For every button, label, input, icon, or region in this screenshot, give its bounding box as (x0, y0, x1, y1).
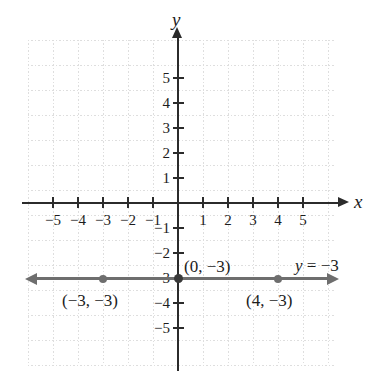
y-axis-label: y (172, 10, 180, 29)
x-tick (77, 197, 79, 208)
x-tick (52, 197, 54, 208)
x-tick-label: 1 (199, 213, 207, 228)
graph-canvas: x y −5 −4 −3 −2 −1 1 2 3 4 5 5 4 3 2 1 −… (0, 0, 380, 381)
graph-line-arrow-left-icon (25, 273, 37, 285)
x-axis-label: x (354, 192, 362, 211)
x-axis (22, 202, 340, 204)
x-tick-label: −4 (70, 213, 86, 228)
x-axis-arrow-icon (338, 197, 349, 207)
x-tick-label: 3 (249, 213, 257, 228)
plot-point (99, 275, 107, 283)
point-label-origin: (0, −3) (184, 258, 230, 275)
y-tick-label: −5 (143, 321, 170, 336)
x-tick (277, 197, 279, 208)
x-tick-label: −2 (120, 213, 136, 228)
y-tick-label: 4 (150, 96, 170, 111)
y-tick (173, 252, 184, 254)
y-axis (177, 36, 179, 371)
x-tick (127, 197, 129, 208)
y-tick (173, 227, 184, 229)
plot-point (174, 274, 183, 283)
y-tick-label: 5 (150, 71, 170, 86)
y-tick (173, 177, 184, 179)
point-label-left: (−3, −3) (62, 292, 118, 309)
x-tick-label: 4 (274, 213, 282, 228)
x-tick (152, 197, 154, 208)
y-tick-label: −1 (143, 221, 170, 236)
y-tick-label: 1 (150, 171, 170, 186)
equation-remainder: = −3 (303, 256, 339, 275)
y-tick-label: −4 (143, 296, 170, 311)
x-tick (227, 197, 229, 208)
point-label-right: (4, −3) (246, 292, 292, 309)
y-tick (173, 127, 184, 129)
x-tick-label: −3 (95, 213, 111, 228)
x-tick-label: 2 (224, 213, 232, 228)
x-tick-label: −5 (45, 213, 61, 228)
y-tick (173, 152, 184, 154)
plot-point (274, 275, 282, 283)
y-tick (173, 77, 184, 79)
x-tick-label: 5 (299, 213, 307, 228)
y-tick (173, 102, 184, 104)
y-tick-label: −2 (143, 246, 170, 261)
x-tick (102, 197, 104, 208)
x-tick (202, 197, 204, 208)
equation-variable: y (295, 256, 303, 275)
y-tick-label: 2 (150, 146, 170, 161)
x-tick (302, 197, 304, 208)
y-tick-label: 3 (150, 121, 170, 136)
equation-label: y = −3 (295, 257, 339, 274)
x-tick (252, 197, 254, 208)
y-tick (173, 327, 184, 329)
y-tick (173, 302, 184, 304)
